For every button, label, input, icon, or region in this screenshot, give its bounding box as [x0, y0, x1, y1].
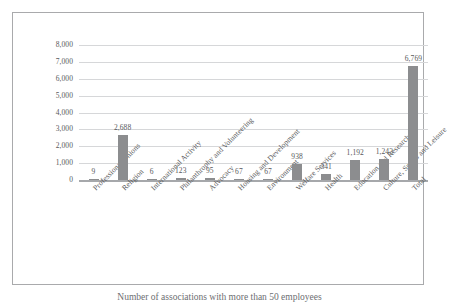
gridline	[79, 96, 428, 97]
bar-value-label: 2,688	[98, 124, 148, 132]
gridline	[79, 113, 428, 114]
bar-value-label: 1,243	[359, 148, 409, 156]
y-axis-tick-label: 3,000	[17, 125, 73, 133]
y-axis-tick-label: 5,000	[17, 92, 73, 100]
figure-caption: Number of associations with more than 50…	[0, 292, 439, 303]
y-axis-tick-label: 6,000	[17, 75, 73, 83]
bar-value-label: 341	[301, 163, 351, 171]
chart-frame: 8,0007,0006,0005,0004,0003,0002,0001,000…	[12, 12, 424, 285]
y-axis-tick-label: 8,000	[17, 41, 73, 49]
y-axis-tick-label: 1,000	[17, 159, 73, 167]
y-axis-tick-label: 4,000	[17, 109, 73, 117]
bar	[408, 66, 418, 180]
gridline	[79, 79, 428, 80]
y-axis-tick-label: 7,000	[17, 58, 73, 66]
y-axis-tick-label: 2,000	[17, 142, 73, 150]
bar-value-label: 938	[272, 153, 322, 161]
y-axis-tick-label: 0	[17, 176, 73, 184]
bar-value-label: 6,769	[388, 55, 438, 63]
gridline	[79, 45, 428, 46]
gridline	[79, 62, 428, 63]
bar	[350, 160, 360, 180]
bar	[379, 159, 389, 180]
plot-area: 8,0007,0006,0005,0004,0003,0002,0001,000…	[79, 45, 428, 180]
